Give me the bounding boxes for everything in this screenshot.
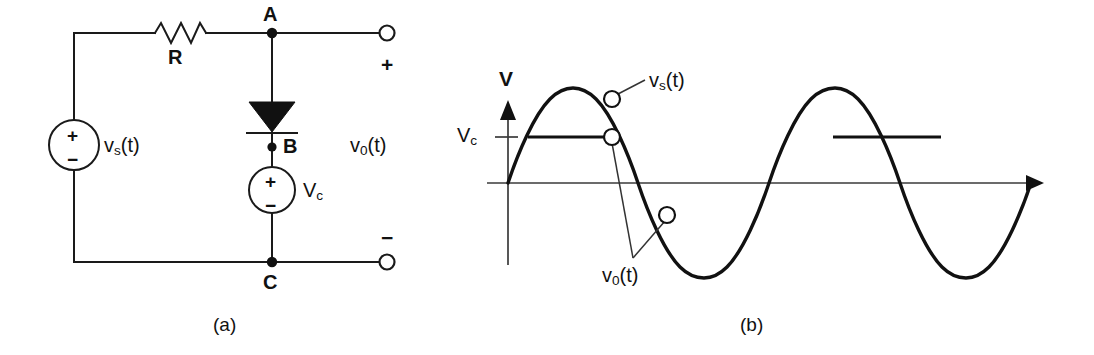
node-label-b: B [283,136,297,156]
vs-trace-label-main: v [649,69,659,91]
output-terminal-positive [380,26,395,41]
output-voltage-label: v0(t) [350,135,386,158]
voltage-axis-label: V [499,68,513,89]
terminal-plus-sign: + [381,54,393,75]
vc-source-label-sub: c [316,188,323,203]
panel-b-caption: (b) [740,315,763,334]
vs-source-label-main: v [104,134,114,156]
vc-level-label-sub: c [470,133,477,148]
v0-trace-label-sub: 0 [612,273,620,288]
output-terminal-negative [380,255,395,270]
marker-v0-on-clip-level [604,129,620,145]
vc-source-label-main: V [303,179,316,201]
output-voltage-label-tail: (t) [368,134,387,156]
vs-source-label-sub: s [114,143,121,158]
node-dot-b [267,142,276,151]
figure-drawing [0,0,1094,355]
vc-level-label: Vc [457,125,477,148]
vs-source-label: vs(t) [104,135,140,158]
figure-container: R A B C + − vs(t) + − Vc + − v0(t) (a) V… [0,0,1094,355]
vs-source-minus-sign: − [67,150,78,169]
v0-trace-label-main: v [602,264,612,286]
node-label-c: C [263,272,277,292]
waveform-plot [487,80,1044,278]
v0-trace-label: v0(t) [602,265,638,288]
vs-trace-label: vs(t) [649,70,685,93]
marker-vs-on-curve [604,91,620,107]
vc-level-label-main: V [457,124,470,146]
resistor-label: R [168,47,182,67]
vc-source-plus-sign: + [265,172,276,191]
terminal-minus-sign: − [381,227,393,248]
output-voltage-label-main: v [350,134,360,156]
node-label-a: A [263,4,277,24]
leader-line-vs [618,80,645,94]
diode-triangle [249,102,295,132]
v0-trace-label-tail: (t) [620,264,639,286]
panel-a-caption: (a) [213,315,236,334]
vc-source-minus-sign: − [265,196,276,215]
vs-trace-label-tail: (t) [666,69,685,91]
node-dot-a [267,28,277,38]
vs-source-label-tail: (t) [121,134,140,156]
marker-v0-on-curve [659,207,675,223]
resistor-symbol [155,23,206,43]
node-dot-c [267,257,277,267]
circuit-schematic [49,23,395,270]
vs-source-plus-sign: + [67,126,78,145]
voltage-axis-arrowhead [500,100,516,120]
vc-source-label: Vc [303,180,323,203]
output-voltage-label-sub: 0 [360,143,368,158]
vs-trace-label-sub: s [659,78,666,93]
